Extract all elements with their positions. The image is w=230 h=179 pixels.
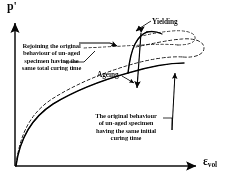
ageing-leader	[122, 76, 134, 83]
rejoining-callout: Rejoining the original behaviour of un-a…	[12, 42, 91, 72]
x-axis-subscript: vol	[208, 160, 217, 169]
rejoining-callout-line-4: same total curing time	[12, 64, 91, 71]
ageing-arrow	[137, 33, 141, 88]
original-callout-line-1: The original behaviour	[82, 112, 170, 119]
ageing-label: Ageing	[97, 71, 119, 79]
yielding-leader	[136, 21, 151, 31]
rejoining-callout-line-3: specimen having the	[12, 57, 91, 64]
y-axis-label: p'	[7, 0, 17, 13]
original-callout-line-4: curing time	[82, 134, 170, 141]
yielding-label: Yielding	[152, 18, 178, 26]
diagram-svg	[0, 0, 230, 179]
rejoining-callout-line-1: Rejoining the original	[12, 42, 91, 49]
figure-canvas: p' εvol Yielding Ageing Rejoining the or…	[0, 0, 230, 179]
original-callout-line-2: of un-aged specimen	[82, 119, 170, 126]
original-behaviour-callout: The original behaviour of un-aged specim…	[82, 112, 170, 142]
rejoining-callout-line-2: behaviour of un-aged	[12, 49, 91, 56]
x-axis-label: εvol	[203, 155, 217, 169]
original-callout-line-3: having the same initial	[82, 127, 170, 134]
